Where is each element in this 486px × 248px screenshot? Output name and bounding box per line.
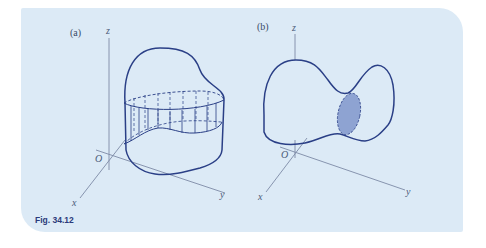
x-axis: [80, 140, 125, 198]
panel-b: (b) z y x O: [257, 21, 411, 202]
origin-label: O: [95, 153, 102, 164]
z-axis-label: z: [291, 22, 296, 33]
panel-b-label: (b): [257, 21, 269, 33]
panel-a-label: (a): [70, 27, 81, 39]
y-axis-label: y: [405, 186, 411, 197]
x-axis-label: x: [257, 191, 263, 202]
figure-caption: Fig. 34.12: [35, 215, 74, 225]
y-axis: [280, 147, 405, 190]
origin-label: O: [281, 149, 288, 160]
x-axis: [266, 138, 307, 192]
panel-a: (a) z y x O: [70, 25, 225, 208]
surface-outline: [125, 48, 224, 175]
surface-outline: [264, 60, 394, 144]
z-axis-label: z: [105, 25, 110, 36]
x-axis-label: x: [71, 197, 77, 208]
band-rulings-back: [134, 91, 208, 133]
figure-graphic: (a) z y x O: [0, 0, 486, 248]
y-axis-label: y: [219, 189, 225, 200]
band-top-back: [124, 91, 224, 103]
y-axis: [96, 150, 225, 193]
shaded-cross-section: [334, 91, 364, 137]
